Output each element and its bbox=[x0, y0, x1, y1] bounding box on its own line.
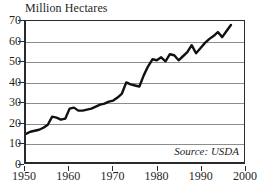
x-tick-label: 2000 bbox=[225, 169, 261, 183]
y-tick-mark bbox=[18, 164, 24, 165]
x-tick-label: 1960 bbox=[48, 169, 88, 183]
x-axis: 1950 1960 1970 1980 1990 2000 bbox=[0, 166, 261, 184]
x-tick-label: 1980 bbox=[137, 169, 177, 183]
source-annotation: Source: USDA bbox=[174, 145, 239, 158]
x-tick-label: 1970 bbox=[92, 169, 132, 183]
x-tick-label: 1990 bbox=[181, 169, 221, 183]
plot-area: Source: USDA bbox=[24, 20, 245, 164]
series-svg bbox=[26, 21, 244, 162]
y-axis: 70 60 50 40 30 20 10 0 bbox=[0, 0, 21, 184]
chart-title: Million Hectares bbox=[25, 1, 108, 15]
line-chart: Million Hectares 70 60 50 40 30 20 10 0 … bbox=[0, 0, 261, 184]
x-tick-label: 1950 bbox=[4, 169, 44, 183]
data-line bbox=[26, 25, 231, 134]
